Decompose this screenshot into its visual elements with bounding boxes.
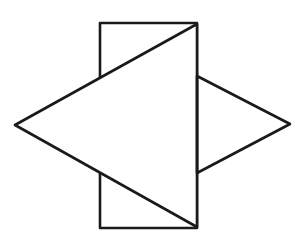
right-pointing-triangle <box>197 76 290 173</box>
geometric-figure <box>0 0 308 245</box>
left-pointing-triangle <box>15 24 197 227</box>
